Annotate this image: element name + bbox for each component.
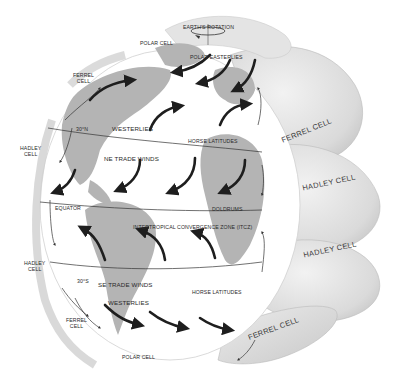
doldrums-label: DOLDRUMS [212, 206, 243, 212]
hadley-cell-north-left-label: HADLEY CELL [20, 145, 41, 157]
ferrel-cell-south-left-label: FERREL CELL [66, 317, 87, 329]
westerlies-north-label: WESTERLIES [112, 126, 153, 132]
earths-rotation-label: EARTH'S ROTATION [183, 24, 234, 30]
polar-cell-south-label: POLAR CELL [122, 354, 155, 360]
horse-latitudes-north-label: HORSE LATITUDES [188, 138, 238, 144]
hadley-cell-south-left-label: HADLEY CELL [24, 260, 45, 272]
lat-30s-label: 30°S [77, 278, 89, 284]
lat-30n-label: 30°N [76, 126, 88, 132]
westerlies-south-label: WESTERLIES [108, 300, 149, 306]
ne-trade-winds-label: NE TRADE WINDS [104, 156, 159, 162]
horse-latitudes-south-label: HORSE LATITUDES [192, 289, 242, 295]
equator-label: EQUATOR [55, 205, 81, 211]
ferrel-cell-north-left-label: FERREL CELL [73, 72, 94, 84]
itcz-label: INTERTROPICAL CONVERGENCE ZONE (ITCZ) [133, 224, 252, 230]
se-trade-winds-label: SE TRADE WINDS [98, 282, 153, 288]
polar-cell-north-label: POLAR CELL [140, 40, 173, 46]
polar-easterlies-label: POLAR EASTERLIES [190, 54, 243, 60]
circulation-diagram: EARTH'S ROTATION POLAR CELL POLAR EASTER… [0, 0, 397, 382]
